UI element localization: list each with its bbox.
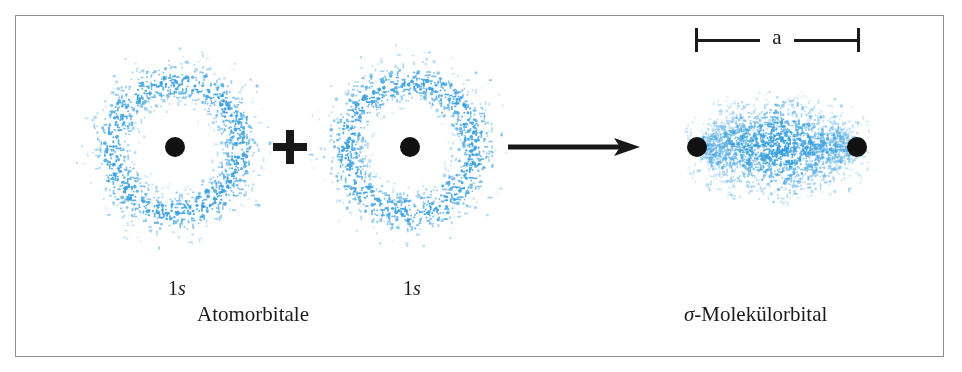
- figure-root: a 1s 1s Atomorbitale σ-Molekülorbital: [0, 0, 962, 372]
- orbital-left-subshell: s: [178, 277, 186, 299]
- nucleus-atom-right: [400, 137, 420, 157]
- nucleus-atom-left: [165, 137, 185, 157]
- caption-molecular-orbital: σ-Molekülorbital: [684, 302, 827, 327]
- orbital-left-principal-number: 1: [168, 277, 178, 299]
- nucleus-molecule-right: [847, 137, 867, 157]
- sigma-symbol: σ: [684, 302, 694, 326]
- dimension-rule-left: [697, 39, 760, 42]
- nucleus-molecule-left: [687, 137, 707, 157]
- caption-atomic-orbitals: Atomorbitale: [197, 302, 309, 327]
- caption-molecular-orbital-text: -Molekülorbital: [694, 302, 827, 326]
- arrow-right-icon: [508, 138, 640, 156]
- orbital-right-subshell: s: [413, 277, 421, 299]
- dimension-rule-right: [794, 39, 858, 42]
- plus-operator-icon: [273, 130, 307, 164]
- orbital-label-right: 1s: [403, 277, 421, 300]
- dimension-label: a: [760, 22, 794, 52]
- bond-length-dimension: a: [690, 26, 865, 56]
- plus-bar-vertical: [286, 130, 294, 164]
- orbital-label-left: 1s: [168, 277, 186, 300]
- orbital-right-principal-number: 1: [403, 277, 413, 299]
